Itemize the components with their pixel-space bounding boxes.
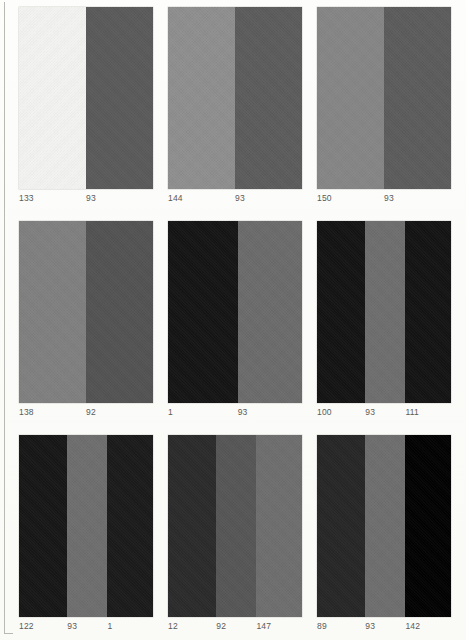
color-band[interactable] xyxy=(365,435,405,617)
swatch-label-row: 122931 xyxy=(19,621,153,640)
swatch-cell: 122931 xyxy=(19,435,153,640)
swatch-label-row: 14493 xyxy=(168,193,302,221)
color-band[interactable] xyxy=(317,221,365,403)
swatch-label-row: 13892 xyxy=(19,407,153,435)
color-number-label: 12 xyxy=(168,621,178,631)
color-band[interactable] xyxy=(405,435,451,617)
color-band[interactable] xyxy=(238,221,302,403)
color-number-label: 1 xyxy=(168,407,173,417)
swatch-label-row: 15093 xyxy=(317,193,451,221)
color-number-label: 133 xyxy=(19,193,34,203)
color-number-label: 89 xyxy=(317,621,327,631)
swatch-label-row: 1292147 xyxy=(168,621,302,640)
swatch-label-row: 10093111 xyxy=(317,407,451,435)
color-number-label: 93 xyxy=(86,193,96,203)
swatch-cell: 14493 xyxy=(168,7,302,220)
color-band[interactable] xyxy=(19,435,67,617)
color-number-label: 138 xyxy=(19,407,34,417)
color-band[interactable] xyxy=(168,221,238,403)
color-number-label: 93 xyxy=(365,621,375,631)
color-number-label: 147 xyxy=(256,621,271,631)
color-swatch-block[interactable] xyxy=(317,221,451,403)
page-edge-rule-foot xyxy=(4,633,13,634)
swatch-label-row: 193 xyxy=(168,407,302,435)
color-band[interactable] xyxy=(365,221,405,403)
color-swatch-block[interactable] xyxy=(168,435,302,617)
color-band[interactable] xyxy=(216,435,256,617)
color-swatch-block[interactable] xyxy=(317,435,451,617)
swatch-cell: 8993142 xyxy=(317,435,451,640)
color-swatch-block[interactable] xyxy=(19,7,153,189)
color-band[interactable] xyxy=(168,435,216,617)
color-band[interactable] xyxy=(86,221,153,403)
color-number-label: 93 xyxy=(67,621,77,631)
color-number-label: 142 xyxy=(405,621,420,631)
color-number-label: 93 xyxy=(235,193,245,203)
color-swatch-block[interactable] xyxy=(19,435,153,617)
color-band[interactable] xyxy=(107,435,153,617)
color-swatch-block[interactable] xyxy=(168,221,302,403)
color-number-label: 150 xyxy=(317,193,332,203)
color-number-label: 93 xyxy=(238,407,248,417)
color-number-label: 100 xyxy=(317,407,332,417)
color-band[interactable] xyxy=(405,221,451,403)
color-number-label: 93 xyxy=(365,407,375,417)
color-band[interactable] xyxy=(19,221,86,403)
color-number-label: 93 xyxy=(384,193,394,203)
color-number-label: 92 xyxy=(216,621,226,631)
swatch-cell: 1292147 xyxy=(168,435,302,640)
color-swatch-block[interactable] xyxy=(317,7,451,189)
swatch-grid: 1339314493150931389219310093111122931129… xyxy=(19,7,459,640)
swatch-cell: 193 xyxy=(168,221,302,434)
color-band[interactable] xyxy=(384,7,451,189)
color-band[interactable] xyxy=(317,7,384,189)
color-band[interactable] xyxy=(67,435,107,617)
color-swatch-block[interactable] xyxy=(19,221,153,403)
swatch-cell: 10093111 xyxy=(317,221,451,434)
page-edge-rule xyxy=(4,2,5,634)
color-band[interactable] xyxy=(168,7,235,189)
swatch-label-row: 13393 xyxy=(19,193,153,221)
color-number-label: 111 xyxy=(405,407,419,417)
swatch-cell: 15093 xyxy=(317,7,451,220)
color-number-label: 92 xyxy=(86,407,96,417)
color-number-label: 1 xyxy=(107,621,112,631)
color-band[interactable] xyxy=(317,435,365,617)
color-band[interactable] xyxy=(19,7,86,189)
color-band[interactable] xyxy=(256,435,302,617)
color-number-label: 144 xyxy=(168,193,183,203)
swatch-cell: 13393 xyxy=(19,7,153,220)
color-swatch-block[interactable] xyxy=(168,7,302,189)
color-number-label: 122 xyxy=(19,621,34,631)
color-band[interactable] xyxy=(86,7,153,189)
swatch-label-row: 8993142 xyxy=(317,621,451,640)
color-band[interactable] xyxy=(235,7,302,189)
swatch-cell: 13892 xyxy=(19,221,153,434)
